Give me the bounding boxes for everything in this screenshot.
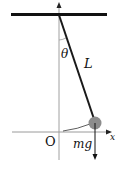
x-axis-label: x — [110, 132, 115, 142]
force-label: mg — [73, 137, 92, 151]
origin-label: O — [45, 134, 56, 149]
trajectory-arc — [63, 124, 90, 131]
angle-label: θ — [61, 47, 69, 61]
pendulum-diagram: θ L O mg x — [0, 0, 124, 169]
angle-arc — [59, 38, 66, 40]
gravity-arrowhead-icon — [93, 154, 98, 160]
vertical-axis-arrowhead-icon — [57, 2, 62, 8]
length-label: L — [83, 56, 93, 71]
